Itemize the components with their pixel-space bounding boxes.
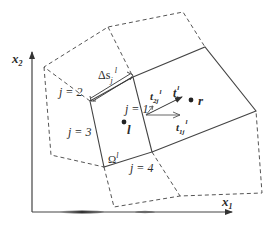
solid-cells <box>90 47 256 167</box>
mesh-diagram: x2 x1 Δsjl j = 2 j = 1 j = 3 j = 4 l r Ω… <box>0 0 278 237</box>
label-l: l <box>127 122 131 137</box>
face-label-j3: j = 3 <box>66 125 91 139</box>
cell-left <box>90 77 152 167</box>
svg-text:x2: x2 <box>11 51 23 68</box>
face-label-j1: j = 1 <box>123 102 148 116</box>
point-r <box>189 98 194 103</box>
neighbor-mesh-dashed <box>44 12 262 207</box>
label-t2j: t2jl <box>150 88 162 105</box>
label-t1j: t1jl <box>176 118 188 136</box>
axis-smudge <box>60 210 104 213</box>
svg-text:Δsjl: Δsjl <box>98 66 118 85</box>
label-r: r <box>198 93 204 108</box>
face-label-j2: j = 2 <box>57 85 82 99</box>
axis-smudge-2 <box>135 211 155 213</box>
point-l <box>122 120 127 125</box>
face-label-j4: j = 4 <box>128 161 153 175</box>
svg-text:x1: x1 <box>221 194 233 211</box>
